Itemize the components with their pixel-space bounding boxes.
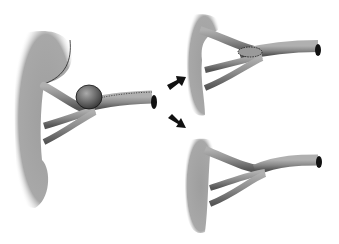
- arrow-down: [168, 114, 186, 128]
- panel-original: [15, 31, 157, 208]
- panel-repair-resection: [185, 139, 322, 233]
- resected-trunk: [255, 160, 318, 170]
- arrow-up: [167, 76, 186, 90]
- patch: [238, 47, 262, 57]
- illustration: [0, 0, 339, 244]
- vessel-end: [151, 95, 157, 109]
- panel-repair-patch: [187, 14, 321, 115]
- aneurysm: [76, 85, 102, 109]
